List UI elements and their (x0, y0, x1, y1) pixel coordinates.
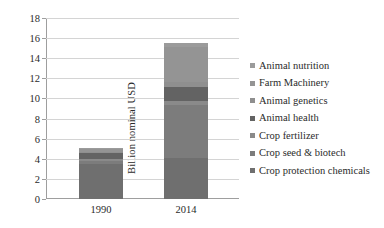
y-tick-mark (42, 38, 46, 39)
plot-frame (46, 18, 239, 199)
x-axis-label: 2014 (164, 204, 208, 215)
legend-swatch-icon (250, 116, 255, 121)
y-tick-label: 18 (30, 13, 41, 24)
legend-item-label: Animal health (259, 113, 319, 124)
y-tick-mark (42, 179, 46, 180)
legend-swatch-icon (250, 81, 255, 86)
gridline (46, 78, 239, 79)
y-tick-mark (42, 119, 46, 120)
gridline (46, 98, 239, 99)
legend-item-label: Farm Machinery (259, 78, 329, 89)
legend-item[interactable]: Animal health (250, 110, 384, 128)
y-tick-label: 8 (35, 113, 40, 124)
y-tick-mark (42, 159, 46, 160)
legend-swatch-icon (250, 133, 255, 138)
legend-item[interactable]: Crop protection chemicals (250, 162, 384, 180)
plot-area: 024681012141618 19902014 (46, 18, 239, 199)
y-tick-mark (42, 18, 46, 19)
y-tick-label: 12 (30, 73, 41, 84)
legend-swatch-icon (250, 168, 255, 173)
gridline (46, 119, 239, 120)
y-tick-label: 0 (35, 194, 40, 205)
legend-item-label: Crop seed & biotech (259, 148, 346, 159)
bar-segment (164, 87, 208, 101)
gridline (46, 18, 239, 19)
legend-swatch-icon (250, 98, 255, 103)
legend-item-label: Animal genetics (259, 96, 328, 107)
gridline (46, 179, 239, 180)
x-axis-label: 1990 (79, 204, 123, 215)
y-tick-label: 10 (30, 93, 41, 104)
legend-item[interactable]: Animal nutrition (250, 57, 384, 75)
legend-item[interactable]: Crop fertilizer (250, 127, 384, 145)
legend-swatch-icon (250, 151, 255, 156)
legend-item[interactable]: Farm Machinery (250, 75, 384, 93)
legend-item[interactable]: Animal genetics (250, 92, 384, 110)
y-tick-mark (42, 78, 46, 79)
legend-item[interactable]: Crop seed & biotech (250, 145, 384, 163)
gridline (46, 38, 239, 39)
y-tick-mark (42, 139, 46, 140)
y-tick-label: 16 (30, 33, 41, 44)
legend-swatch-icon (250, 63, 255, 68)
y-tick-mark (42, 199, 46, 200)
bar-segment (164, 105, 208, 158)
bar-2014: 2014 (164, 43, 208, 199)
bar-segment (164, 47, 208, 82)
bar-segment (164, 158, 208, 199)
bar-segment (79, 164, 123, 199)
gridline (46, 159, 239, 160)
y-tick-label: 2 (35, 173, 40, 184)
y-axis-title-wrap: Billion nominal USD (2, 38, 16, 164)
y-tick-mark (42, 58, 46, 59)
legend-item-label: Crop fertilizer (259, 131, 319, 142)
gridline (46, 139, 239, 140)
legend-item-label: Crop protection chemicals (259, 166, 370, 177)
gridline (46, 58, 239, 59)
y-tick-label: 6 (35, 133, 40, 144)
y-tick-label: 4 (35, 153, 40, 164)
stacked-bar-chart: Billion nominal USD 024681012141618 1990… (0, 0, 384, 228)
bar-1990: 1990 (79, 148, 123, 199)
chart-legend: Animal nutritionFarm MachineryAnimal gen… (250, 57, 384, 180)
y-tick-label: 14 (30, 53, 41, 64)
legend-item-label: Animal nutrition (259, 61, 329, 72)
y-tick-mark (42, 98, 46, 99)
